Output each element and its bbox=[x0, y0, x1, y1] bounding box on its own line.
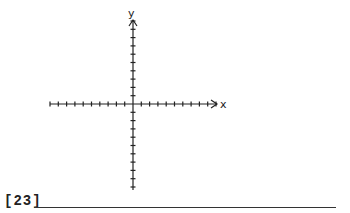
answer-line[interactable] bbox=[34, 207, 336, 208]
coordinate-plane: x y bbox=[0, 0, 350, 213]
y-axis-label: y bbox=[128, 7, 135, 20]
x-axis-label: x bbox=[220, 98, 227, 111]
